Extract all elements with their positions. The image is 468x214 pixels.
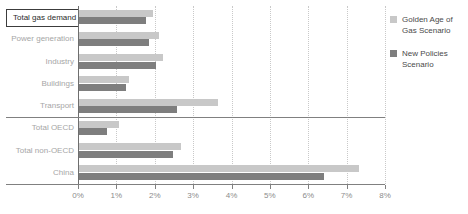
bar-golden-age — [79, 76, 129, 83]
x-axis-tick — [155, 185, 156, 189]
gridline — [347, 6, 348, 184]
chart-legend: Golden Age of Gas ScenarioNew Policies S… — [390, 14, 468, 82]
x-axis-tick-label: 2% — [149, 191, 161, 200]
legend-item: Golden Age of Gas Scenario — [390, 14, 468, 36]
plot-area — [78, 6, 385, 184]
bar-new-policies — [79, 151, 173, 158]
x-axis-tick-label: 6% — [302, 191, 314, 200]
bar-new-policies — [79, 173, 324, 180]
x-axis-tick-label: 1% — [111, 191, 123, 200]
bar-new-policies — [79, 128, 107, 135]
bar-new-policies — [79, 106, 177, 113]
gridline — [270, 6, 271, 184]
legend-label: Golden Age of Gas Scenario — [402, 14, 468, 36]
bar-new-policies — [79, 39, 149, 46]
legend-swatch-icon — [390, 50, 397, 57]
x-axis-tick — [270, 185, 271, 189]
bar-new-policies — [79, 17, 146, 24]
bar-chart: Total gas demandPower generationIndustry… — [0, 0, 468, 214]
x-axis-tick — [193, 185, 194, 189]
category-label-buildings: Buildings — [42, 79, 74, 89]
category-label-power-generation: Power generation — [11, 34, 74, 44]
bar-golden-age — [79, 121, 119, 128]
category-label-transport: Transport — [40, 101, 74, 111]
category-label-total-oecd: Total OECD — [32, 123, 74, 133]
x-axis-tick — [78, 185, 79, 189]
group-separator — [6, 184, 385, 185]
category-label-total-non-oecd: Total non-OECD — [16, 146, 74, 156]
bar-golden-age — [79, 143, 181, 150]
x-axis-tick — [116, 185, 117, 189]
x-axis-tick — [308, 185, 309, 189]
bar-golden-age — [79, 54, 163, 61]
bar-golden-age — [79, 99, 218, 106]
bar-golden-age — [79, 10, 153, 17]
x-axis-tick — [347, 185, 348, 189]
x-axis-tick-label: 7% — [341, 191, 353, 200]
gridline — [385, 6, 386, 184]
x-axis-tick-label: 4% — [226, 191, 238, 200]
group-separator — [6, 117, 385, 118]
gridline — [232, 6, 233, 184]
x-axis-tick-label: 8% — [379, 191, 391, 200]
bar-golden-age — [79, 165, 359, 172]
legend-label: New Policies Scenario — [402, 48, 468, 70]
category-label-total-gas-demand: Total gas demand — [6, 9, 78, 27]
gridline — [308, 6, 309, 184]
category-label-column: Total gas demandPower generationIndustry… — [0, 0, 78, 214]
legend-item: New Policies Scenario — [390, 48, 468, 70]
category-label-industry: Industry — [46, 57, 74, 67]
x-axis-tick — [232, 185, 233, 189]
x-axis-tick — [385, 185, 386, 189]
bar-new-policies — [79, 62, 156, 69]
legend-swatch-icon — [390, 16, 397, 23]
category-label-china: China — [53, 168, 74, 178]
gridline — [193, 6, 194, 184]
x-axis-tick-label: 5% — [264, 191, 276, 200]
bar-new-policies — [79, 84, 126, 91]
x-axis-tick-label: 0% — [72, 191, 84, 200]
bar-golden-age — [79, 32, 159, 39]
x-axis-tick-label: 3% — [187, 191, 199, 200]
